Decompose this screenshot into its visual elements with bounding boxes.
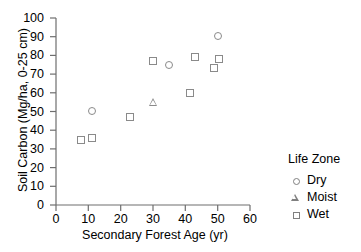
square-icon [288,207,302,221]
data-point-wet [186,89,194,97]
y-axis-ticks [50,18,56,205]
data-point-dry [165,61,173,69]
legend-item-dry[interactable]: Dry [288,172,360,188]
legend-item-moist[interactable]: Moist [288,189,360,205]
data-point-dry [88,107,96,115]
data-point-wet [77,136,85,144]
chart-figure: 100 90 80 70 60 50 40 30 20 10 0 0 10 20… [0,0,361,252]
legend: Life Zone Dry Moist Wet [288,152,360,223]
x-axis-label: Secondary Forest Age (yr) [40,228,270,242]
data-point-wet [149,57,157,65]
legend-item-label: Dry [307,173,326,187]
circle-icon [288,173,302,187]
data-point-wet [191,53,199,61]
legend-title: Life Zone [288,152,360,166]
x-tick-label: 30 [141,213,165,225]
data-point-moist [149,98,157,106]
x-tick-label: 50 [206,213,230,225]
x-axis-ticks [56,205,250,211]
legend-item-label: Wet [307,207,329,221]
y-axis-label: Soil Carbon (Mg/ha, 0-25 cm) [14,5,32,215]
data-point-wet [88,134,96,142]
x-tick-label: 40 [173,213,197,225]
data-point-wet [210,64,218,72]
legend-item-wet[interactable]: Wet [288,206,360,222]
x-tick-label: 10 [76,213,100,225]
data-point-wet [215,55,223,63]
x-tick-label: 20 [109,213,133,225]
triangle-icon [288,190,302,204]
x-tick-label: 60 [238,213,262,225]
legend-item-label: Moist [307,190,337,204]
data-point-dry [214,32,222,40]
data-point-wet [126,113,134,121]
x-tick-label: 0 [44,213,68,225]
